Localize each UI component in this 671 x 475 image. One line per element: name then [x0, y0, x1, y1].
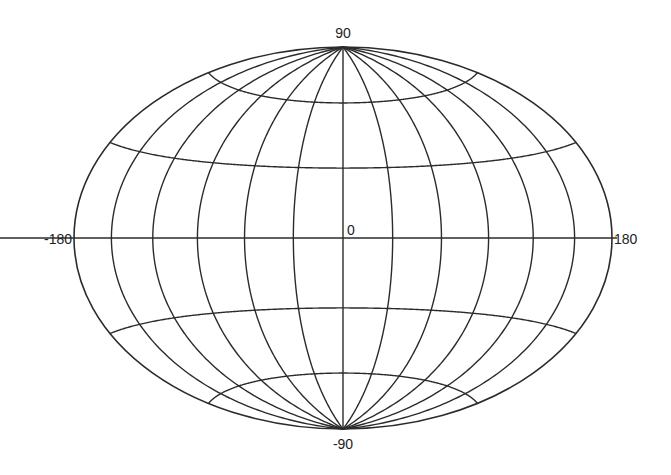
label-east-edge: 180 [614, 231, 638, 247]
label-south-pole: -90 [333, 436, 353, 452]
label-north-pole: 90 [335, 25, 351, 41]
label-west-edge: -180 [44, 231, 72, 247]
hammer-projection-map: 90 -90 -180 180 0 [0, 0, 671, 475]
label-center-origin: 0 [347, 222, 355, 238]
